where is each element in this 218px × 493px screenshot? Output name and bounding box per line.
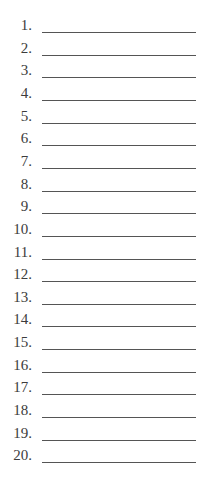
list-item: 10. [0,219,218,239]
list-item: 19. [0,423,218,443]
list-item: 15. [0,332,218,352]
list-item: 17. [0,377,218,397]
item-number: 15. [13,335,32,350]
item-number: 14. [13,312,32,327]
item-number: 8. [21,177,32,192]
blank-answer-line [42,304,196,305]
blank-answer-line [42,213,196,214]
blank-answer-line [42,394,196,395]
item-number: 16. [13,358,32,373]
list-item: 20. [0,445,218,465]
list-item: 18. [0,400,218,420]
list-item: 14. [0,309,218,329]
blank-answer-line [42,77,196,78]
item-number: 12. [13,267,32,282]
item-number: 4. [21,86,32,101]
blank-answer-line [42,281,196,282]
item-number: 18. [13,403,32,418]
blank-answer-line [42,32,196,33]
item-number: 2. [21,41,32,56]
item-number: 1. [21,18,32,33]
list-item: 9. [0,196,218,216]
blank-answer-line [42,462,196,463]
item-number: 5. [21,109,32,124]
list-item: 16. [0,355,218,375]
list-item: 2. [0,38,218,58]
item-number: 19. [13,426,32,441]
blank-answer-line [42,326,196,327]
item-number: 11. [14,245,32,260]
blank-answer-line [42,440,196,441]
item-number: 10. [13,222,32,237]
item-number: 20. [13,448,32,463]
list-item: 4. [0,83,218,103]
blank-answer-line [42,191,196,192]
item-number: 3. [21,63,32,78]
blank-answer-line [42,100,196,101]
blank-answer-line [42,372,196,373]
blank-answer-line [42,236,196,237]
blank-answer-line [42,145,196,146]
list-item: 1. [0,15,218,35]
list-item: 7. [0,151,218,171]
blank-answer-line [42,417,196,418]
blank-answer-line [42,123,196,124]
item-number: 9. [21,199,32,214]
list-item: 13. [0,287,218,307]
item-number: 17. [13,380,32,395]
blank-answer-line [42,349,196,350]
item-number: 7. [21,154,32,169]
list-item: 12. [0,264,218,284]
blank-answer-line [42,168,196,169]
list-item: 6. [0,128,218,148]
list-item: 5. [0,106,218,126]
blank-answer-line [42,55,196,56]
list-item: 8. [0,174,218,194]
blank-answer-line [42,259,196,260]
list-item: 3. [0,60,218,80]
list-item: 11. [0,242,218,262]
item-number: 6. [21,131,32,146]
item-number: 13. [13,290,32,305]
